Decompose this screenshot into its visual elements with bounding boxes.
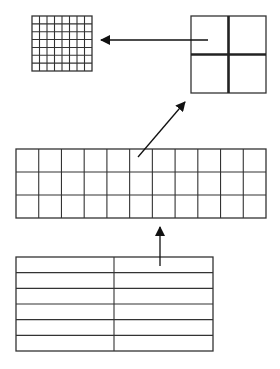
two-column-table-node bbox=[16, 257, 213, 351]
diagram-canvas bbox=[0, 0, 280, 369]
nodes-layer bbox=[16, 16, 266, 351]
fine-grid-node bbox=[32, 16, 92, 71]
quad-square-node bbox=[191, 16, 266, 93]
edges-layer bbox=[101, 40, 208, 266]
wide-grid-node bbox=[16, 149, 266, 218]
wide-grid-border bbox=[16, 149, 266, 218]
